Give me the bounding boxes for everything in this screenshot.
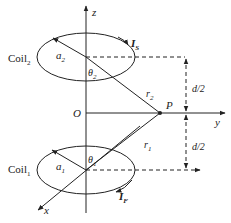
point-p-label: P [165, 99, 173, 111]
origin-label: O [73, 107, 81, 119]
r1-line [86, 113, 160, 170]
x-axis-label: x [43, 204, 49, 216]
coil-diagram: z y x O Coil2 a2 θ2 IS Coil1 a1 θ1 IF r2… [0, 0, 231, 223]
d-half-top-label: d/2 [192, 83, 205, 94]
coil-1-radius-label: a1 [56, 160, 65, 175]
r2-label: r2 [146, 88, 154, 102]
r2-line [86, 57, 160, 113]
coil-1-angle-label: θ1 [88, 154, 96, 168]
coil-2-label: Coil2 [8, 52, 31, 67]
coil-2-angle-label: θ2 [88, 67, 97, 81]
current-if-label: IF [118, 190, 128, 205]
d-half-bottom-label: d/2 [192, 141, 205, 152]
current-is-label: IS [130, 37, 139, 52]
coil-1-label: Coil1 [8, 163, 31, 178]
r1-label: r1 [144, 139, 151, 153]
coil-2-radius-label: a2 [56, 49, 66, 64]
z-axis-label: z [91, 6, 97, 18]
point-p [158, 111, 162, 115]
y-axis-label: y [214, 116, 220, 128]
